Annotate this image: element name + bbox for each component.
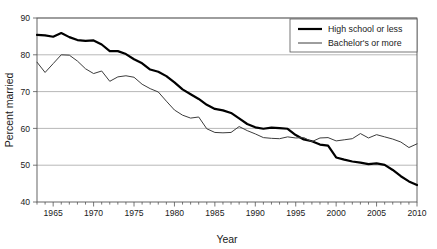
x-tick-label: 1965 [44,208,63,218]
y-tick-label: 50 [20,160,30,170]
x-tick-label: 1985 [205,208,224,218]
x-tick-label: 2010 [407,208,426,218]
y-tick-label: 70 [20,87,30,97]
x-tick-label: 1970 [84,208,103,218]
x-tick-label: 1990 [246,208,265,218]
y-tick-label: 40 [20,197,30,207]
percent-married-line-chart: 1965197019751980198519901995200020052010… [0,0,437,249]
legend-label-bachelors: Bachelor's or more [328,38,402,48]
x-tick-label: 1995 [286,208,305,218]
x-tick-label: 1980 [165,208,184,218]
legend-label-high-school: High school or less [328,24,403,34]
x-axis-title: Year [216,233,238,245]
y-tick-label: 60 [20,124,30,134]
chart-legend: High school or less Bachelor's or more [290,19,417,52]
x-tick-label: 2005 [367,208,386,218]
x-tick-label: 2000 [327,208,346,218]
y-tick-label: 80 [20,50,30,60]
chart-figure: 1965197019751980198519901995200020052010… [0,0,437,249]
y-axis-title: Percent married [3,72,15,147]
y-tick-label: 90 [20,13,30,23]
x-tick-label: 1975 [124,208,143,218]
